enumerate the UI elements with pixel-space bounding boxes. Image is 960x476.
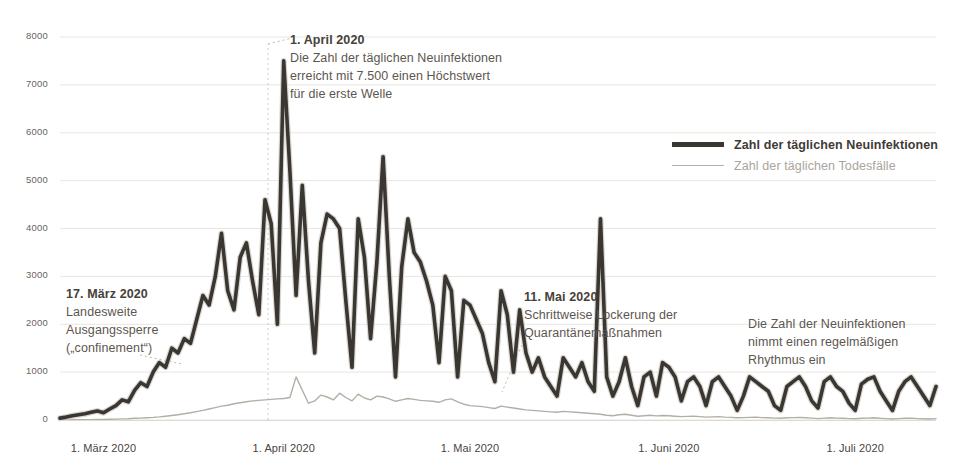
annotation-april-heading: 1. April 2020 [290,32,502,49]
annotation-rhythmus: Die Zahl der Neuinfektionen nimmt einen … [748,315,906,369]
annotation-mai: 11. Mai 2020 Schrittweise Lockerung der … [524,289,677,342]
x-axis-tick-label: 1. Juli 2020 [785,442,925,454]
y-axis-tick-label: 1000 [8,365,48,376]
x-axis-tick-label: 1. Mai 2020 [400,442,540,454]
y-axis-tick-label: 0 [8,413,48,424]
annotation-maerz-line-3: („confinement“) [66,339,158,357]
annotation-mai-line-1: Schrittweise Lockerung der [524,306,677,324]
legend-item-cases: Zahl der täglichen Neuinfektionen [672,134,938,155]
y-axis-tick-label: 3000 [8,269,48,280]
annotation-mai-line-2: Quarantänemaßnahmen [524,324,677,342]
legend-label-cases: Zahl der täglichen Neuinfektionen [734,138,938,152]
annotation-rhythmus-line-2: nimmt einen regelmäßigen [748,333,906,351]
legend-label-deaths: Zahl der täglichen Todesfälle [734,159,896,173]
annotation-rhythmus-line-3: Rhythmus ein [748,351,906,369]
annotation-maerz-heading: 17. März 2020 [66,286,158,303]
annotation-april: 1. April 2020 Die Zahl der täglichen Neu… [290,32,502,103]
y-axis-tick-label: 5000 [8,174,48,185]
y-axis-tick-label: 2000 [8,317,48,328]
y-axis-tick-label: 8000 [8,30,48,41]
y-axis-tick-label: 6000 [8,126,48,137]
annotation-mai-heading: 11. Mai 2020 [524,289,677,306]
y-axis-tick-label: 7000 [8,78,48,89]
leader-line-april [268,38,292,44]
x-axis-tick-label: 1. März 2020 [34,442,174,454]
annotation-april-line-2: erreicht mit 7.500 einen Höchstwert [290,67,502,85]
chart-legend: Zahl der täglichen Neuinfektionen Zahl d… [672,134,938,176]
annotation-april-line-1: Die Zahl der täglichen Neuinfektionen [290,49,502,67]
legend-swatch-deaths-icon [672,165,724,166]
annotation-maerz: 17. März 2020 Landesweite Ausgangssperre… [66,286,158,357]
legend-swatch-cases-icon [672,142,724,147]
annotation-rhythmus-line-1: Die Zahl der Neuinfektionen [748,315,906,333]
annotation-maerz-line-1: Landesweite [66,303,158,321]
legend-item-deaths: Zahl der täglichen Todesfälle [672,155,938,176]
x-axis-tick-label: 1. April 2020 [214,442,354,454]
annotation-maerz-line-2: Ausgangssperre [66,321,158,339]
chart-container: 010002000300040005000600070008000 1. Mär… [0,0,960,476]
x-axis-tick-label: 1. Juni 2020 [599,442,739,454]
annotation-april-line-3: für die erste Welle [290,85,502,103]
y-axis-tick-label: 4000 [8,222,48,233]
